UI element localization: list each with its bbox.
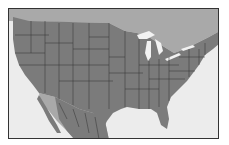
map-frame (8, 8, 219, 139)
us-states-map (9, 9, 219, 139)
